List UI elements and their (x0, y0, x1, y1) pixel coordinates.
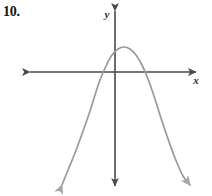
y-axis-label: y (103, 8, 110, 20)
parabola-curve (62, 47, 190, 185)
coordinate-plane-figure: y x (0, 0, 212, 196)
worksheet-problem-figure: 10. y x (0, 0, 212, 196)
x-axis-label: x (192, 74, 199, 86)
